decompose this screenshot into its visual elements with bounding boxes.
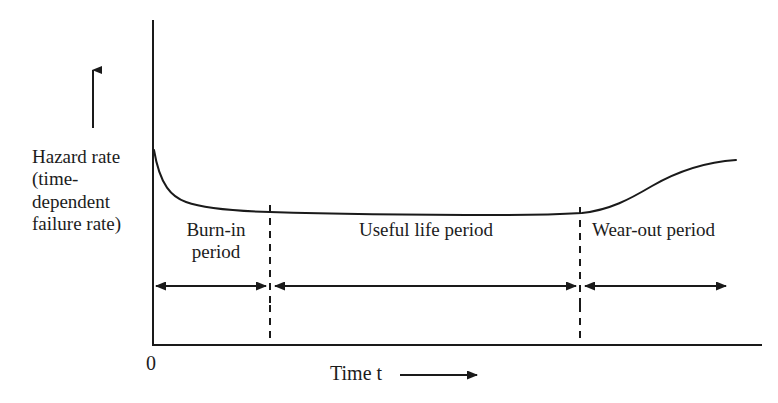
region-label-burn-in: Burn-in period xyxy=(163,219,269,264)
bathtub-curve-figure: Hazard rate (time- dependent failure rat… xyxy=(0,0,778,403)
y-axis-label: Hazard rate (time- dependent failure rat… xyxy=(32,146,154,236)
region-label-useful-life: Useful life period xyxy=(300,219,552,241)
x-axis-label: Time t xyxy=(330,362,382,386)
origin-label: 0 xyxy=(146,352,156,376)
region-label-wear-out: Wear-out period xyxy=(592,219,764,241)
hazard-rate-curve xyxy=(154,150,736,215)
